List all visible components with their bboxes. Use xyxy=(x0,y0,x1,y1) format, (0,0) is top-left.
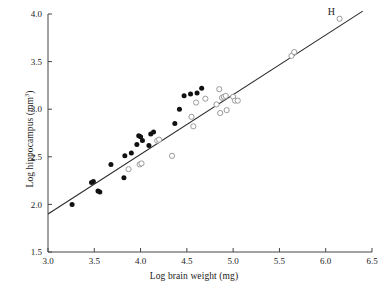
data-points xyxy=(70,16,343,207)
axis-tick-labels: 3.03.54.04.55.05.56.06.51.52.02.53.03.54… xyxy=(31,9,378,266)
point-filled xyxy=(129,150,134,155)
point-open xyxy=(203,96,208,101)
point-open xyxy=(224,108,229,113)
axes xyxy=(48,14,372,252)
point-open xyxy=(214,102,219,107)
point-open xyxy=(194,100,199,105)
x-tick-label: 6.0 xyxy=(320,256,332,266)
y-axis-title: Log hippocampus (mm3) xyxy=(24,91,35,188)
x-axis-title: Log brain weight (mg) xyxy=(0,271,388,281)
point-open xyxy=(337,16,342,21)
scatter-plot: 3.03.54.04.55.05.56.06.51.52.02.53.03.54… xyxy=(0,0,388,294)
regression-line xyxy=(48,11,363,214)
y-tick-label: 1.5 xyxy=(31,247,43,257)
point-open xyxy=(126,167,131,172)
point-filled xyxy=(146,143,151,148)
point-filled xyxy=(140,138,145,143)
point-filled xyxy=(182,93,187,98)
point-filled xyxy=(91,179,96,184)
x-tick-label: 4.5 xyxy=(181,256,193,266)
fit-line xyxy=(48,11,363,214)
annotations: H xyxy=(328,6,335,17)
point-filled xyxy=(97,190,102,195)
point-open xyxy=(292,49,297,54)
point-filled xyxy=(177,107,182,112)
x-tick-label: 6.5 xyxy=(366,256,378,266)
y-axis-title-exponent: 3 xyxy=(24,94,30,97)
point-filled xyxy=(188,91,193,96)
point-filled xyxy=(151,130,156,135)
point-filled xyxy=(195,91,200,96)
point-filled xyxy=(121,175,126,180)
x-tick-label: 5.0 xyxy=(228,256,240,266)
x-tick-label: 4.0 xyxy=(135,256,147,266)
point-open xyxy=(223,93,228,98)
point-open xyxy=(235,98,240,103)
x-tick-label: 3.5 xyxy=(89,256,101,266)
chart-figure: 3.03.54.04.55.05.56.06.51.52.02.53.03.54… xyxy=(0,0,388,294)
point-filled xyxy=(108,162,113,167)
point-open xyxy=(217,87,222,92)
point-filled xyxy=(199,86,204,91)
axis-ticks xyxy=(48,14,372,252)
x-tick-label: 3.0 xyxy=(42,256,54,266)
series-filled xyxy=(70,86,205,207)
annotation-label: H xyxy=(328,6,335,17)
point-filled xyxy=(70,202,75,207)
point-open xyxy=(191,124,196,129)
point-open xyxy=(156,137,161,142)
y-tick-label: 4.0 xyxy=(31,9,43,19)
point-open xyxy=(139,161,144,166)
y-axis-title-wrap: Log hippocampus (mm3) xyxy=(19,39,37,239)
x-tick-label: 5.5 xyxy=(274,256,286,266)
point-open xyxy=(189,114,194,119)
point-open xyxy=(218,110,223,115)
point-open xyxy=(169,153,174,158)
point-filled xyxy=(122,153,127,158)
point-filled xyxy=(172,121,177,126)
series-open xyxy=(126,16,342,172)
point-filled xyxy=(134,142,139,147)
